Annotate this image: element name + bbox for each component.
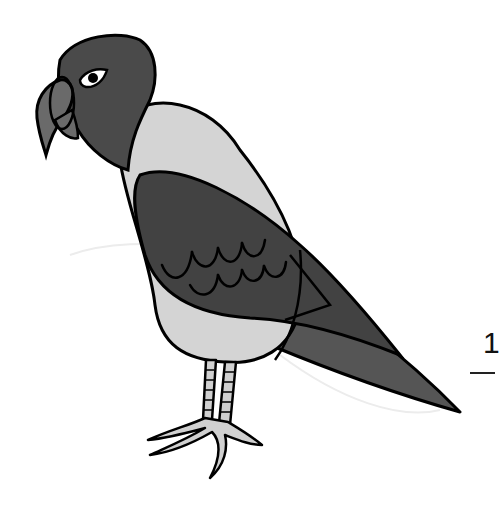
parrot-legs bbox=[148, 360, 262, 478]
parrot-pupil bbox=[88, 73, 98, 83]
left-foot-toes bbox=[148, 418, 262, 478]
page-number: 1 bbox=[483, 328, 500, 358]
page-number-rule bbox=[470, 372, 495, 374]
